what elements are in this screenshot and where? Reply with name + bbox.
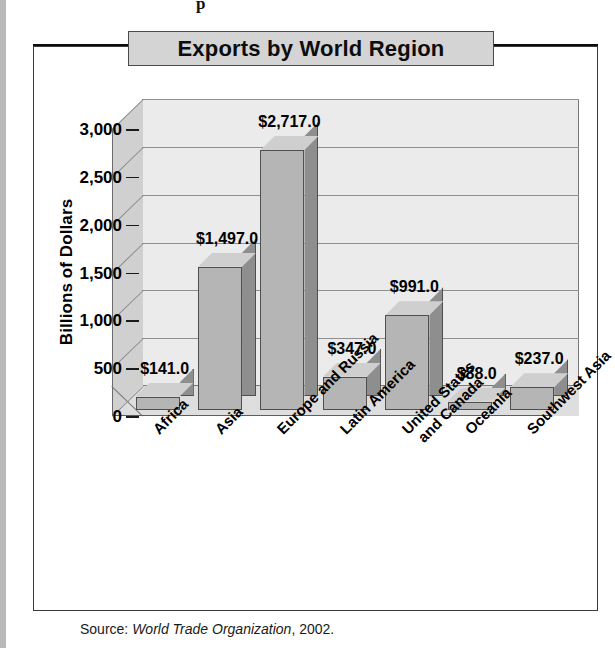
y-axis-tick-label: 0 bbox=[34, 408, 122, 425]
y-axis-tick-mark bbox=[126, 416, 139, 418]
y-axis-tick-mark bbox=[126, 225, 139, 227]
page-top-fragment-text: p bbox=[196, 0, 396, 14]
bar-top-outline bbox=[260, 136, 318, 150]
source-label: Source: bbox=[80, 621, 128, 637]
bar bbox=[260, 136, 304, 410]
y-axis-tick-mark bbox=[126, 129, 139, 131]
bar-value-label: $237.0 bbox=[482, 351, 596, 367]
gridline bbox=[142, 147, 579, 148]
y-axis-tick-label: 2,000 bbox=[34, 217, 122, 234]
bar bbox=[198, 253, 242, 410]
bar-top-outline bbox=[385, 301, 443, 315]
y-axis-tick-mark bbox=[126, 273, 139, 275]
chart-title: Exports by World Region bbox=[178, 36, 445, 62]
bar-value-label: $2,717.0 bbox=[232, 114, 346, 130]
y-axis-tick-label: 500 bbox=[34, 360, 122, 377]
gridline bbox=[142, 99, 579, 100]
chart-area: Billions of Dollars $141.0$1,497.0$2,717… bbox=[34, 87, 599, 567]
bar-top-outline bbox=[136, 383, 194, 397]
y-axis-tick-label: 3,000 bbox=[34, 121, 122, 138]
bar-top-outline bbox=[510, 373, 568, 387]
y-axis-tick-label: 2,500 bbox=[34, 169, 122, 186]
y-axis-tick-label: 1,500 bbox=[34, 265, 122, 282]
bar-front-face bbox=[260, 150, 304, 410]
figure-frame: Billions of Dollars $141.0$1,497.0$2,717… bbox=[33, 46, 598, 611]
y-axis-tick-mark bbox=[126, 177, 139, 179]
y-axis-tick-label: 1,000 bbox=[34, 312, 122, 329]
source-note: Source: World Trade Organization, 2002. bbox=[80, 621, 334, 637]
bar-top-outline bbox=[198, 253, 256, 267]
y-axis-tick-mark bbox=[126, 320, 139, 322]
bar-front-face bbox=[198, 267, 242, 410]
page-edge-artifact bbox=[0, 0, 6, 648]
bar-value-label: $991.0 bbox=[357, 279, 471, 295]
y-axis-tick-mark bbox=[126, 368, 139, 370]
chart-title-plate: Exports by World Region bbox=[128, 31, 494, 66]
plot-area: $141.0$1,497.0$2,717.0$347.0$991.0$88.0$… bbox=[142, 99, 579, 416]
source-organization: World Trade Organization bbox=[132, 621, 291, 637]
source-year: , 2002. bbox=[291, 621, 334, 637]
gridline bbox=[142, 195, 579, 196]
